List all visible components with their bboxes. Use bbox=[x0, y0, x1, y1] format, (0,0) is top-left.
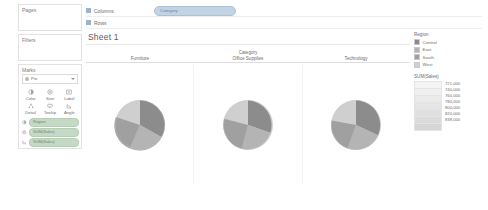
legend-swatch-east bbox=[414, 47, 420, 53]
columns-icon bbox=[86, 8, 91, 13]
legend-item-east[interactable]: East bbox=[414, 47, 486, 53]
filters-shelf[interactable]: Filters bbox=[18, 34, 82, 61]
pie-chart-furniture[interactable] bbox=[112, 97, 168, 153]
angle-icon bbox=[22, 140, 27, 145]
size-swatch-4 bbox=[415, 110, 441, 117]
chevron-down-icon[interactable] bbox=[71, 78, 75, 80]
marks-pill-region[interactable]: Region bbox=[29, 118, 79, 127]
page-title: Sheet 1 bbox=[86, 30, 410, 42]
marks-label-button[interactable]: Label bbox=[60, 87, 79, 102]
worksheet-view: Sheet 1 Category Furniture Office Suppli… bbox=[86, 30, 410, 208]
legend-item-south[interactable]: South bbox=[414, 54, 486, 60]
marks-detail-label: Detail bbox=[25, 110, 36, 115]
detail-icon bbox=[27, 103, 35, 110]
title-divider bbox=[86, 44, 410, 45]
legend-swatch-west bbox=[414, 62, 420, 68]
pie-icon bbox=[25, 77, 29, 81]
size-legend-title: SUM(Sales) bbox=[414, 74, 486, 79]
region-legend: Region Central East South West bbox=[414, 32, 486, 68]
size-swatch-0 bbox=[415, 82, 441, 89]
column-headers: Furniture Office Supplies Technology bbox=[86, 56, 410, 63]
pie-chart-office-supplies[interactable] bbox=[220, 97, 276, 153]
column-field-header: Category bbox=[86, 50, 410, 55]
marks-pill-row-color[interactable]: Region bbox=[19, 118, 81, 128]
marks-pill-sales-size[interactable]: SUM(Sales) bbox=[29, 128, 79, 137]
size-value-6: 838,000 bbox=[445, 117, 460, 123]
marks-title: Marks bbox=[19, 65, 81, 74]
columns-pill-category-label: Category bbox=[160, 7, 178, 15]
size-swatch-1 bbox=[415, 89, 441, 96]
legend-swatch-south bbox=[414, 54, 420, 60]
marks-tooltip-label: Tooltip bbox=[44, 110, 56, 115]
color-icon bbox=[22, 120, 27, 125]
marks-size-button[interactable]: Size bbox=[40, 87, 59, 102]
legend-item-west[interactable]: West bbox=[414, 62, 486, 68]
column-header-office-supplies[interactable]: Office Supplies bbox=[194, 56, 302, 61]
legend-label-central: Central bbox=[423, 40, 437, 45]
marks-button-grid: Color Size bbox=[19, 87, 81, 118]
color-icon bbox=[27, 88, 35, 95]
marks-card: Marks Pie Color bbox=[18, 64, 82, 149]
marks-angle-button[interactable]: Angle bbox=[60, 102, 79, 117]
marks-tooltip-button[interactable]: Tooltip bbox=[40, 102, 59, 117]
pages-title: Pages bbox=[19, 5, 81, 14]
column-header-technology[interactable]: Technology bbox=[302, 56, 410, 61]
rows-shelf[interactable]: Rows bbox=[86, 17, 482, 29]
angle-icon bbox=[65, 103, 73, 110]
size-legend-ramp[interactable]: 721,000 740,000 760,000 780,000 800,000 … bbox=[414, 81, 486, 131]
size-icon bbox=[22, 130, 27, 135]
size-swatch-3 bbox=[415, 103, 441, 110]
legend-panel: Region Central East South West SUM(Sales… bbox=[414, 32, 486, 131]
region-legend-title: Region bbox=[414, 32, 486, 37]
rows-icon bbox=[86, 20, 91, 25]
legend-swatch-central bbox=[414, 39, 420, 45]
marks-pill-row-size[interactable]: SUM(Sales) bbox=[19, 128, 81, 138]
tooltip-icon bbox=[46, 103, 54, 110]
size-swatch-6 bbox=[415, 124, 441, 131]
shelves-area: Columns Category Rows bbox=[86, 5, 482, 29]
legend-label-west: West bbox=[423, 62, 433, 67]
pane-technology bbox=[302, 65, 410, 185]
legend-label-south: South bbox=[423, 55, 434, 60]
label-icon bbox=[65, 88, 73, 95]
marks-color-button[interactable]: Color bbox=[21, 87, 40, 102]
size-icon bbox=[46, 88, 54, 95]
mark-type-dropdown[interactable]: Pie bbox=[22, 74, 78, 84]
rows-shelf-label: Rows bbox=[94, 20, 124, 26]
left-sidebar: Pages Filters Marks Pie bbox=[18, 4, 82, 204]
columns-shelf-label: Columns bbox=[94, 8, 124, 14]
pane-office-supplies bbox=[193, 65, 301, 185]
size-swatch-5 bbox=[415, 117, 441, 124]
mark-type-value: Pie bbox=[31, 75, 37, 83]
legend-item-central[interactable]: Central bbox=[414, 39, 486, 45]
size-legend-swatches bbox=[414, 81, 442, 131]
marks-pill-region-label: Region bbox=[33, 119, 46, 126]
pane-furniture bbox=[86, 65, 193, 185]
marks-pill-row-angle[interactable]: SUM(Sales) bbox=[19, 138, 81, 148]
legend-label-east: East bbox=[423, 47, 432, 52]
columns-shelf[interactable]: Columns Category bbox=[86, 5, 482, 17]
size-swatch-2 bbox=[415, 96, 441, 103]
marks-angle-label: Angle bbox=[64, 110, 75, 115]
pages-shelf[interactable]: Pages bbox=[18, 4, 82, 31]
marks-pill-sales-angle-label: SUM(Sales) bbox=[33, 139, 55, 146]
size-legend: SUM(Sales) 721,000 740,000 760,000 780,0… bbox=[414, 74, 486, 131]
size-legend-labels: 721,000 740,000 760,000 780,000 800,000 … bbox=[442, 81, 460, 131]
marks-pill-sales-size-label: SUM(Sales) bbox=[33, 129, 55, 136]
chart-panes bbox=[86, 65, 410, 185]
marks-detail-button[interactable]: Detail bbox=[21, 102, 40, 117]
marks-color-label: Color bbox=[26, 96, 36, 101]
column-header-furniture[interactable]: Furniture bbox=[86, 56, 194, 61]
marks-pill-sales-angle[interactable]: SUM(Sales) bbox=[29, 138, 79, 147]
pie-chart-technology[interactable] bbox=[328, 97, 384, 153]
marks-label-label: Label bbox=[64, 96, 74, 101]
columns-pill-category[interactable]: Category bbox=[154, 6, 236, 16]
filters-dropzone[interactable] bbox=[19, 44, 81, 60]
pages-dropzone[interactable] bbox=[19, 14, 81, 30]
columns-dropzone[interactable]: Category bbox=[124, 6, 482, 16]
filters-title: Filters bbox=[19, 35, 81, 44]
marks-size-label: Size bbox=[46, 96, 54, 101]
tableau-worksheet: Pages Filters Marks Pie bbox=[0, 0, 488, 210]
